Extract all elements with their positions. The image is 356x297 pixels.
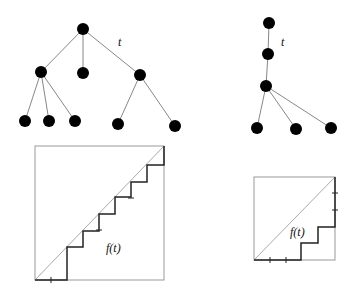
tree-node: [251, 122, 263, 134]
tree-node: [112, 118, 124, 130]
tree-node: [290, 123, 302, 135]
tree-edge: [257, 86, 266, 128]
right-tree-edge-label: t: [281, 35, 285, 49]
tree-node: [35, 66, 47, 78]
tree-node: [169, 120, 181, 132]
tree-edge: [25, 72, 41, 121]
tree-edge: [266, 86, 331, 128]
tree-node: [77, 67, 89, 79]
left-tree: [19, 23, 181, 132]
right-plot-function-label: f(t): [290, 225, 305, 239]
left-tree-edge-label: t: [118, 35, 122, 49]
tree-edge: [83, 29, 140, 75]
tree-edge: [41, 72, 75, 121]
tree-node: [325, 122, 337, 134]
tree-edge: [140, 75, 175, 126]
tree-edge: [266, 86, 296, 129]
left-staircase-plot: [35, 146, 164, 283]
tree-node: [19, 115, 31, 127]
tree-node: [262, 48, 274, 60]
right-tree: [251, 17, 337, 135]
right-staircase-plot: [254, 177, 338, 263]
tree-node: [260, 80, 272, 92]
tree-node: [69, 115, 81, 127]
tree-edge: [41, 29, 83, 72]
tree-node: [43, 115, 55, 127]
left-plot-function-label: f(t): [106, 241, 121, 255]
tree-node: [77, 23, 89, 35]
tree-edge: [118, 75, 140, 124]
tree-edge: [41, 72, 49, 121]
tree-node: [134, 69, 146, 81]
diagonal-line: [35, 146, 164, 280]
tree-node: [263, 17, 275, 29]
diagonal-line: [254, 177, 335, 260]
diagram-canvas: t t f(t) f(t): [0, 0, 356, 297]
